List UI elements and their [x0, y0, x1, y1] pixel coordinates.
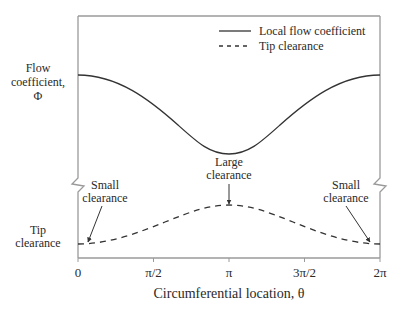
- svg-text:clearance: clearance: [323, 191, 368, 205]
- svg-text:clearance: clearance: [15, 236, 60, 250]
- annotation-small-right: Small clearance: [323, 178, 370, 242]
- arrow-icon: [346, 206, 370, 242]
- x-axis-label: Circumferential location, θ: [154, 286, 305, 301]
- x-tick-2: π: [226, 265, 233, 280]
- svg-text:Large: Large: [215, 155, 243, 169]
- legend: Local flow coefficient Tip clearance: [219, 24, 366, 53]
- y-label-lower: Tip clearance: [15, 223, 60, 250]
- legend-label-flow: Local flow coefficient: [259, 24, 366, 38]
- x-tick-3: 3π/2: [293, 265, 316, 280]
- tip-clearance-line: [78, 205, 380, 244]
- legend-label-clearance: Tip clearance: [259, 39, 324, 53]
- x-tick-1: π/2: [145, 265, 162, 280]
- x-tick-labels: 0 π/2 π 3π/2 2π: [75, 265, 387, 280]
- right-axis-break: [374, 16, 386, 258]
- flow-coefficient-line: [78, 75, 380, 154]
- annotation-small-left: Small clearance: [82, 178, 127, 242]
- plot-frame: [72, 16, 386, 258]
- y-label-upper: Flow coefficient, Φ: [11, 61, 65, 103]
- chart: 0 π/2 π 3π/2 2π Circumferential location…: [0, 0, 403, 310]
- x-tick-0: 0: [75, 265, 82, 280]
- svg-text:Flow: Flow: [26, 61, 51, 75]
- svg-text:Φ: Φ: [34, 89, 43, 103]
- left-axis-break: [72, 16, 84, 258]
- x-tick-4: 2π: [373, 265, 387, 280]
- svg-text:Small: Small: [91, 178, 120, 192]
- svg-text:coefficient,: coefficient,: [11, 75, 65, 89]
- svg-text:clearance: clearance: [206, 168, 251, 182]
- svg-text:Tip: Tip: [30, 223, 46, 237]
- arrow-icon: [88, 206, 102, 242]
- svg-text:clearance: clearance: [82, 191, 127, 205]
- svg-text:Small: Small: [332, 178, 361, 192]
- annotation-large-center: Large clearance: [206, 155, 251, 204]
